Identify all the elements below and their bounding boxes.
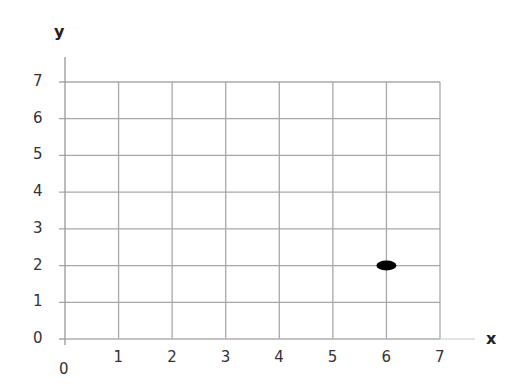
y-tick-label: 4 (33, 184, 43, 199)
x-tick-label: 6 (381, 350, 391, 365)
plot-area (0, 0, 520, 388)
origin-label: 0 (59, 362, 69, 377)
x-tick-label: 2 (167, 350, 177, 365)
y-axis-label: y (54, 22, 64, 41)
x-tick-label: 7 (435, 350, 445, 365)
x-tick-label: 5 (328, 350, 338, 365)
x-axis-label: x (486, 329, 496, 348)
y-tick-label: 0 (33, 331, 43, 346)
y-tick-label: 3 (33, 221, 43, 236)
y-tick-label: 6 (33, 111, 43, 126)
y-tick-label: 7 (33, 74, 43, 89)
y-tick-label: 5 (33, 147, 43, 162)
x-tick-label: 1 (114, 350, 124, 365)
y-tick-label: 2 (33, 258, 43, 273)
data-point (376, 261, 396, 271)
x-tick-label: 3 (221, 350, 231, 365)
x-tick-label: 4 (274, 350, 284, 365)
y-tick-label: 1 (33, 294, 43, 309)
